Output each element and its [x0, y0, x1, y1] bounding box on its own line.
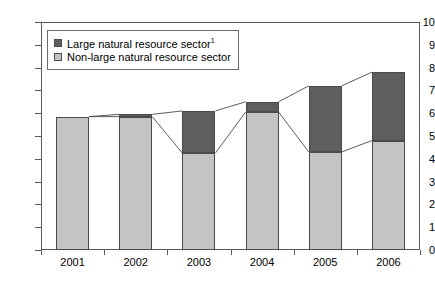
- x-tick-label-2005: 2005: [301, 256, 349, 268]
- bar-segment-large-sector: [372, 72, 405, 140]
- chart-container: 012345678910 200120022003200420052006 La…: [0, 0, 435, 283]
- bar-segment-non-large-sector: [56, 117, 89, 250]
- legend-footnote-marker: 1: [211, 37, 215, 44]
- legend-label-large: Large natural resource sector1: [67, 37, 215, 50]
- bar-segment-large-sector: [182, 111, 215, 153]
- x-tick-mark: [357, 250, 358, 255]
- bar-segment-large-sector: [309, 86, 342, 152]
- bar-segment-non-large-sector: [309, 152, 342, 250]
- x-tick-label-2001: 2001: [49, 256, 97, 268]
- legend-label-non-large: Non-large natural resource sector: [67, 51, 231, 63]
- bar-segment-non-large-sector: [182, 153, 215, 250]
- chart-legend: Large natural resource sector1 Non-large…: [47, 30, 239, 70]
- x-tick-mark: [420, 250, 421, 255]
- bar-2004: [246, 102, 279, 250]
- bar-2006: [372, 72, 405, 250]
- legend-swatch-large-icon: [54, 39, 62, 47]
- bar-segment-non-large-sector: [119, 117, 152, 250]
- x-tick-mark: [41, 250, 42, 255]
- legend-swatch-non-large-icon: [54, 53, 62, 61]
- x-tick-mark: [294, 250, 295, 255]
- legend-item-non-large: Non-large natural resource sector: [54, 51, 231, 63]
- x-tick-label-2006: 2006: [364, 256, 412, 268]
- bar-2001: [56, 117, 89, 250]
- x-tick-mark: [231, 250, 232, 255]
- x-tick-label-2002: 2002: [112, 256, 160, 268]
- x-tick-label-2004: 2004: [238, 256, 286, 268]
- x-tick-mark: [167, 250, 168, 255]
- bar-2003: [182, 111, 215, 250]
- legend-item-large: Large natural resource sector1: [54, 37, 231, 50]
- bar-segment-non-large-sector: [246, 112, 279, 250]
- x-tick-mark: [104, 250, 105, 255]
- x-tick-label-2003: 2003: [175, 256, 223, 268]
- bar-2005: [309, 86, 342, 250]
- bar-2002: [119, 114, 152, 250]
- bar-segment-large-sector: [246, 102, 279, 112]
- bar-segment-non-large-sector: [372, 141, 405, 250]
